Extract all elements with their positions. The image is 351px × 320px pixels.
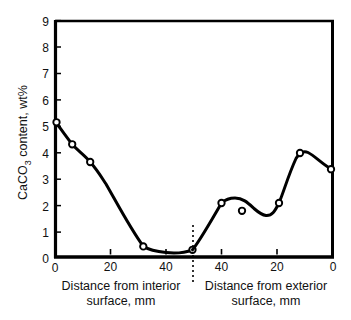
data-point-marker (140, 243, 146, 249)
y-tick-label: 0 (42, 252, 49, 266)
x-tick-label-exterior-40: 40 (215, 260, 229, 274)
x-tick-label-interior-40: 40 (159, 260, 173, 274)
x-tick-label-exterior-20: 20 (270, 260, 284, 274)
interior-caption-line2: surface, mm (87, 294, 156, 308)
y-tick-label: 6 (42, 94, 49, 108)
interior-caption-line1: Distance from interior (62, 279, 181, 293)
data-point-marker (297, 150, 303, 156)
data-point-marker (239, 208, 245, 214)
y-tick-label: 1 (42, 226, 49, 240)
y-tick-label: 8 (42, 41, 49, 55)
y-tick-label: 2 (42, 200, 49, 214)
y-axis-title-pre: CaCO (16, 165, 30, 200)
data-point-marker (328, 166, 334, 172)
data-point-marker (69, 141, 75, 147)
y-tick-label: 3 (42, 173, 49, 187)
calcium-carbonate-profile-chart: CaCO3 content, wt% 9 8 7 6 5 4 3 2 1 0 (0, 0, 351, 320)
x-tick-label-interior-20: 20 (104, 260, 118, 274)
exterior-caption-line1: Distance from exterior (205, 279, 327, 293)
data-point-marker (53, 119, 59, 125)
x-tick-label-interior-0: 0 (52, 261, 59, 275)
exterior-caption-line2: surface, mm (232, 294, 301, 308)
y-tick-label: 4 (42, 147, 49, 161)
y-tick-label: 7 (42, 67, 49, 81)
y-tick-label: 9 (42, 15, 49, 29)
data-point-marker (218, 200, 224, 206)
data-point-marker (87, 159, 93, 165)
x-tick-label-exterior-0: 0 (330, 260, 337, 274)
y-tick-label: 5 (42, 120, 49, 134)
data-point-marker (276, 200, 282, 206)
y-axis-title-post: content, wt% (16, 85, 30, 160)
